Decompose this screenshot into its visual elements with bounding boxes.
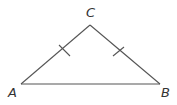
- vertex-label-a: A: [7, 85, 17, 100]
- triangle-sides: [21, 25, 160, 84]
- side-ac: [21, 25, 90, 84]
- vertex-labels: C A B: [7, 5, 170, 100]
- vertex-label-b: B: [161, 85, 170, 100]
- vertex-label-c: C: [86, 5, 96, 20]
- triangle-diagram: C A B: [0, 0, 177, 105]
- congruence-tick-marks: [59, 45, 124, 56]
- side-cb: [90, 25, 160, 84]
